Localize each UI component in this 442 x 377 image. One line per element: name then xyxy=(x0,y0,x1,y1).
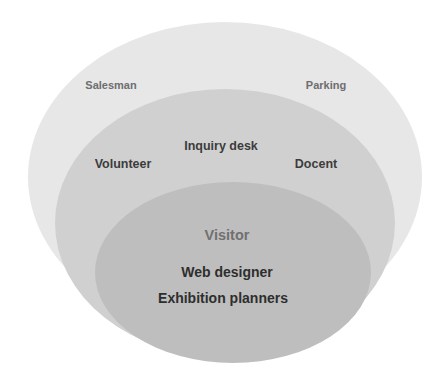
label-volunteer: Volunteer xyxy=(95,157,152,171)
label-web-designer: Web designer xyxy=(181,264,273,280)
label-parking: Parking xyxy=(306,79,346,91)
label-visitor: Visitor xyxy=(205,227,250,243)
label-docent: Docent xyxy=(295,157,337,171)
label-salesman: Salesman xyxy=(85,79,136,91)
label-inquiry-desk: Inquiry desk xyxy=(184,139,258,153)
label-exhibition-planners: Exhibition planners xyxy=(158,290,288,306)
